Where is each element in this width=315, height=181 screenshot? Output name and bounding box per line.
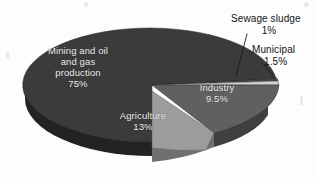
slice-label-mining: Mining and oil and gas production 75%: [32, 45, 124, 89]
pie-chart-figure: Mining and oil and gas production 75% Ag…: [0, 0, 315, 181]
callout-label-sewage-sludge: Sewage sludge 1%: [231, 13, 307, 37]
scan-artifact-speck: [304, 2, 309, 7]
callout-label-municipal: Municipal 1.5%: [252, 44, 295, 68]
slice-label-mining-line1: Mining and oil: [48, 45, 108, 56]
scan-artifact-speck: [84, 2, 88, 7]
callout-label-municipal-name: Municipal: [252, 44, 295, 55]
callout-label-sewage-sludge-name: Sewage sludge: [231, 13, 301, 24]
slice-label-industry-percent: 9.5%: [206, 93, 228, 104]
slice-label-mining-percent: 75%: [68, 78, 87, 89]
slice-label-industry-name: Industry: [200, 82, 235, 93]
callout-label-municipal-percent: 1.5%: [252, 56, 295, 68]
slice-label-agriculture-name: Agriculture: [120, 110, 167, 121]
slice-label-mining-line3: production: [55, 67, 100, 78]
scan-artifact-speck: [6, 52, 9, 59]
callout-label-sewage-sludge-percent: 1%: [231, 25, 307, 37]
scan-artifact-speck: [300, 96, 303, 105]
slice-label-agriculture-percent: 13%: [133, 121, 152, 132]
slice-label-industry: Industry 9.5%: [186, 82, 248, 104]
slice-label-agriculture: Agriculture 13%: [108, 110, 178, 132]
slice-label-mining-line2: and gas: [61, 56, 96, 67]
